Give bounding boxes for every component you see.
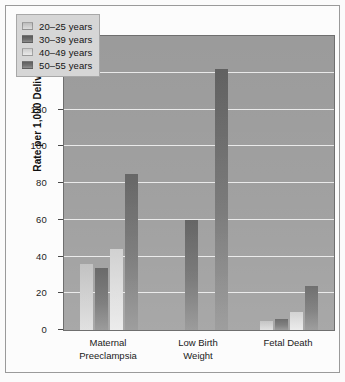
y-axis-tick-label: 40 <box>7 250 47 261</box>
bar <box>215 69 228 330</box>
y-axis-tick-label: 0 <box>7 324 47 335</box>
legend-item: 40–49 years <box>22 46 92 58</box>
bar <box>275 319 288 330</box>
y-axis-tick-label: 20 <box>7 287 47 298</box>
bar <box>95 268 108 330</box>
gridline <box>64 256 334 257</box>
legend-label: 20–25 years <box>39 21 92 32</box>
legend-label: 50–55 years <box>39 60 92 71</box>
x-axis-label: Fetal Death <box>243 337 333 350</box>
y-axis-tick-label: 60 <box>7 213 47 224</box>
bar <box>80 264 93 330</box>
bar <box>125 174 138 330</box>
bar <box>290 312 303 330</box>
bar <box>185 220 198 330</box>
legend: 20–25 years30–39 years40–49 years50–55 y… <box>16 14 100 77</box>
gridline <box>64 109 334 110</box>
legend-label: 30–39 years <box>39 34 92 45</box>
gridline <box>64 35 334 36</box>
bar <box>110 249 123 330</box>
x-axis-label: Maternal Preeclampsia <box>63 337 153 362</box>
bar <box>260 321 273 330</box>
gridline <box>64 219 334 220</box>
y-axis-tick-label: 120 <box>7 103 47 114</box>
legend-swatch-icon <box>22 48 33 56</box>
legend-item: 50–55 years <box>22 59 92 71</box>
legend-swatch-icon <box>22 35 33 43</box>
y-axis-tick-label: 100 <box>7 140 47 151</box>
plot-area <box>63 35 335 331</box>
legend-item: 20–25 years <box>22 20 92 32</box>
legend-swatch-icon <box>22 61 33 69</box>
gridline <box>64 182 334 183</box>
chart-figure: Rate per 1,000 Deliveries 02040608010012… <box>0 0 345 382</box>
figure-frame: Rate per 1,000 Deliveries 02040608010012… <box>5 5 340 373</box>
legend-swatch-icon <box>22 22 33 30</box>
legend-item: 30–39 years <box>22 33 92 45</box>
bar <box>305 286 318 330</box>
gridline <box>64 72 334 73</box>
legend-label: 40–49 years <box>39 47 92 58</box>
x-axis-label: Low Birth Weight <box>153 337 243 362</box>
gridline <box>64 145 334 146</box>
y-axis-tick-label: 80 <box>7 177 47 188</box>
